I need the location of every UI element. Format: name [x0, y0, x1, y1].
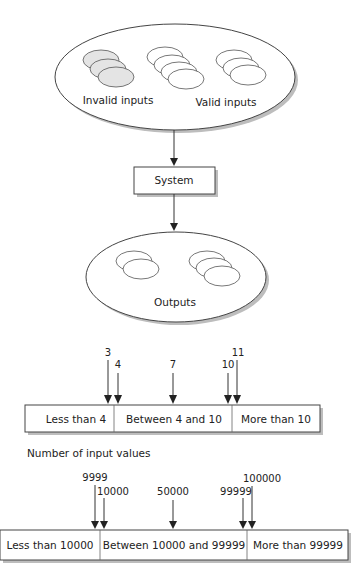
partition-2-test-values: 9999 10000 50000 99999 100000 — [82, 472, 281, 529]
arrowhead-icon — [239, 521, 247, 529]
test-value-label: 10000 — [97, 486, 129, 497]
test-value-label: 11 — [232, 347, 245, 358]
arrowhead-icon — [170, 158, 178, 166]
partition-segment: Less than 10000 — [6, 539, 93, 551]
arrowhead-icon — [233, 395, 241, 404]
test-value-label: 99999 — [220, 486, 252, 497]
arrowhead-icon — [169, 395, 177, 404]
outputs-ellipse: Outputs — [86, 232, 269, 325]
equivalence-partitioning-diagram: Invalid inputs Valid inputs System Outpu… — [0, 0, 363, 565]
partition-2-bar: Less than 10000 Between 10000 and 99999 … — [0, 530, 351, 563]
arrowhead-icon — [169, 521, 177, 529]
partition-segment: Between 4 and 10 — [126, 413, 222, 425]
test-value-label: 9999 — [82, 472, 107, 483]
test-value-label: 3 — [105, 347, 111, 358]
partition-1-bar: Less than 4 Between 4 and 10 More than 1… — [25, 405, 323, 435]
test-value-label: 4 — [115, 359, 121, 370]
system-box: System — [134, 167, 218, 197]
partition-segment: More than 10 — [241, 413, 311, 425]
test-value-label: 10 — [222, 359, 235, 370]
outputs-label: Outputs — [154, 296, 196, 308]
invalid-inputs-label: Invalid inputs — [83, 94, 154, 106]
partition-segment: More than 99999 — [253, 539, 343, 551]
system-label: System — [154, 174, 193, 186]
test-value-label: 7 — [170, 359, 176, 370]
partition-segment: Between 10000 and 99999 — [103, 539, 246, 551]
partition-1-test-values: 3 4 7 10 11 — [104, 347, 244, 404]
arrowhead-icon — [104, 395, 112, 404]
test-value-label: 100000 — [243, 473, 281, 484]
arrowhead-icon — [248, 521, 256, 529]
inputs-ellipse: Invalid inputs Valid inputs — [55, 24, 298, 133]
partition-segment: Less than 4 — [46, 413, 107, 425]
arrowhead-icon — [114, 395, 122, 404]
arrowhead-icon — [100, 521, 108, 529]
valid-inputs-label: Valid inputs — [195, 96, 256, 108]
arrowhead-icon — [91, 521, 99, 529]
arrowhead-icon — [170, 223, 178, 231]
partition-2-caption: Number of input values — [27, 447, 150, 459]
arrowhead-icon — [224, 395, 232, 404]
test-value-label: 50000 — [157, 486, 189, 497]
